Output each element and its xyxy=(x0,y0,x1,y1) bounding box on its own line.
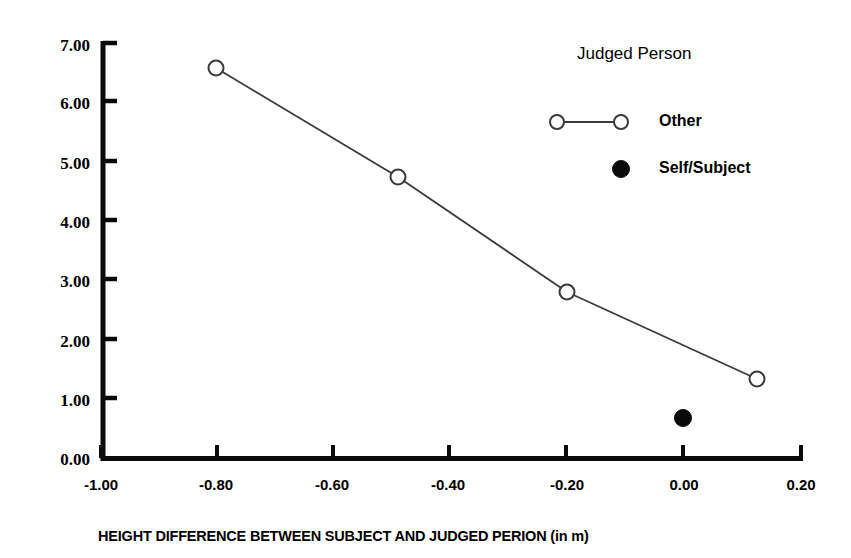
legend-marker-other xyxy=(550,115,628,129)
series-self-subject-marker xyxy=(675,410,692,427)
plot-area xyxy=(0,0,851,558)
chart-container: 7.00 6.00 5.00 4.00 3.00 2.00 1.00 0.00 … xyxy=(0,0,851,558)
axis-spines xyxy=(101,41,804,459)
series-other-line xyxy=(216,68,757,379)
legend-marker-self-subject xyxy=(613,161,630,178)
series-other-markers xyxy=(209,61,765,387)
